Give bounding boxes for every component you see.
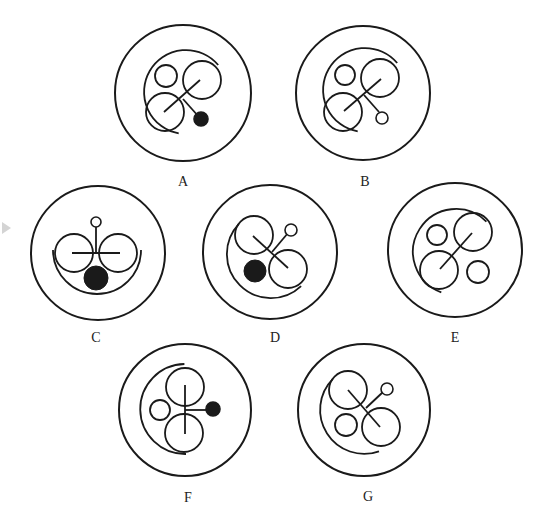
connector-line	[164, 80, 200, 112]
option-figure-e	[388, 183, 522, 317]
option-figure-f	[119, 344, 251, 476]
filled-circle	[244, 260, 266, 282]
option-label-a: A	[178, 174, 188, 190]
option-figure-b	[296, 26, 430, 160]
option-label-e: E	[451, 330, 460, 346]
option-label-d: D	[270, 330, 280, 346]
option-label-b: B	[360, 174, 369, 190]
filled-end-dot	[206, 402, 220, 416]
inner-circle	[427, 225, 447, 245]
inner-circle	[165, 414, 203, 452]
inner-circle	[335, 414, 357, 436]
option-label-f: F	[184, 490, 192, 506]
option-label-c: C	[91, 330, 100, 346]
option-figure-a	[115, 25, 251, 161]
inner-circle	[183, 61, 221, 99]
inner-circle	[467, 261, 489, 283]
inner-circle	[454, 213, 492, 251]
filled-end-dot	[194, 112, 208, 126]
hollow-end-dot	[376, 112, 388, 124]
puzzle-figure-canvas	[0, 0, 546, 528]
option-figure-g	[298, 344, 430, 476]
inner-circle	[150, 400, 170, 420]
inner-circle	[155, 65, 177, 87]
outer-circle	[115, 25, 251, 161]
connector-line	[366, 392, 383, 408]
connector-line	[272, 233, 288, 252]
option-figure-d	[203, 185, 337, 319]
outer-circle	[388, 183, 522, 317]
inner-circle	[335, 65, 355, 85]
option-figure-c	[31, 186, 165, 320]
outer-circle	[298, 344, 430, 476]
hollow-end-dot	[381, 383, 393, 395]
filled-circle	[84, 266, 108, 290]
hollow-end-dot	[285, 224, 297, 236]
inner-circle	[420, 251, 458, 289]
outer-circle	[296, 26, 430, 160]
hollow-end-dot	[91, 217, 101, 227]
inner-arc	[140, 364, 186, 454]
option-label-g: G	[363, 489, 373, 505]
